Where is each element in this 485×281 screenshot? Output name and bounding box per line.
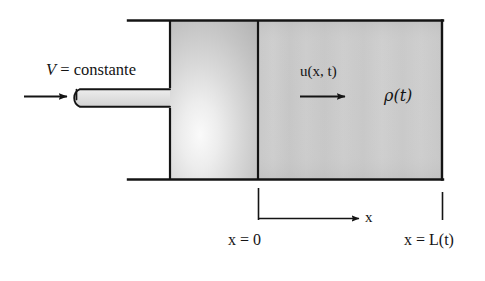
label-inlet-velocity: V = constante	[46, 62, 136, 79]
label-x-length: x = L(t)	[404, 232, 454, 248]
label-x-origin: x = 0	[228, 232, 261, 248]
label-inlet-velocity-symbol: V	[46, 60, 56, 79]
figure-container: V = constante u(x, t) ρ(t) x x = 0 x = L…	[0, 0, 485, 281]
label-velocity-field: u(x, t)	[300, 64, 337, 79]
inlet-pipe-body	[74, 89, 170, 107]
gas-region-shading	[258, 21, 443, 179]
label-axis-x: x	[365, 210, 373, 225]
piston-region	[170, 21, 258, 179]
label-inlet-velocity-value: constante	[74, 60, 136, 79]
label-density: ρ(t)	[384, 88, 412, 104]
